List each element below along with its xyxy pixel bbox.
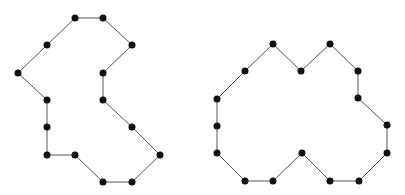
vertex-dot [44, 152, 51, 159]
vertex-dot [100, 97, 107, 104]
vertex-dot [72, 15, 79, 22]
left-polygon [15, 15, 164, 186]
vertex-dot [72, 152, 79, 159]
vertex-dot [129, 124, 136, 131]
vertex-dot [242, 178, 249, 185]
vertex-dot [298, 68, 305, 75]
vertex-dot [355, 95, 362, 102]
vertex-dot [214, 150, 221, 157]
vertex-dot [157, 152, 164, 159]
vertex-dot [242, 68, 249, 75]
vertex-dot [355, 68, 362, 75]
vertex-dot [100, 70, 107, 77]
vertex-dot [299, 150, 306, 157]
vertex-dot [214, 123, 221, 130]
vertex-dot [270, 178, 277, 185]
left-polygon-outline [18, 18, 160, 182]
vertex-dot [384, 122, 391, 129]
right-polygon-outline [217, 44, 387, 181]
right-polygon [214, 41, 391, 185]
vertex-dot [44, 42, 51, 49]
vertex-dot [15, 70, 22, 77]
vertex-dot [270, 41, 277, 48]
vertex-dot [327, 178, 334, 185]
vertex-dot [100, 15, 107, 22]
vertex-dot [327, 41, 334, 48]
diagram-canvas [0, 0, 405, 195]
vertex-dot [384, 150, 391, 157]
vertex-dot [129, 179, 136, 186]
vertex-dot [129, 42, 136, 49]
vertex-dot [44, 97, 51, 104]
vertex-dot [356, 178, 363, 185]
vertex-dot [44, 124, 51, 131]
vertex-dot [100, 179, 107, 186]
vertex-dot [214, 96, 221, 103]
